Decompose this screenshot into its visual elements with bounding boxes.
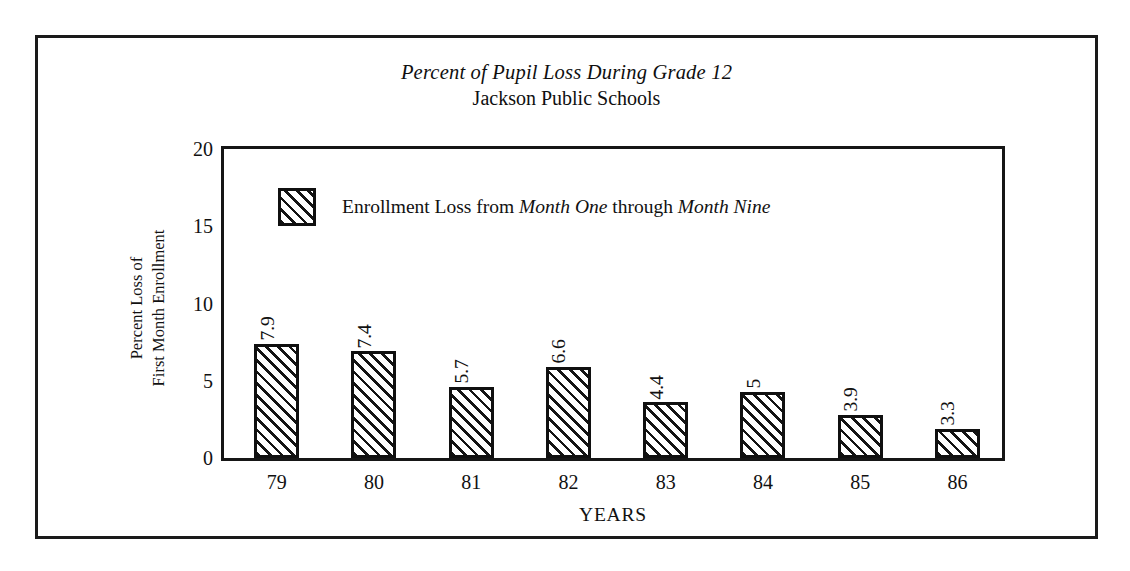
x-axis-category-label: 86 bbox=[947, 472, 967, 492]
bar[interactable]: 5.781 bbox=[449, 387, 494, 458]
bar-value-label: 7.4 bbox=[354, 324, 374, 348]
bar-value-label: 7.9 bbox=[257, 316, 277, 340]
bar[interactable]: 584 bbox=[740, 392, 785, 458]
bar[interactable]: 7.979 bbox=[254, 344, 299, 458]
y-axis-title: Percent Loss of First Month Enrollment bbox=[126, 188, 186, 428]
page-title: Percent of Pupil Loss During Grade 12 bbox=[38, 60, 1095, 85]
bar-value-label: 3.9 bbox=[841, 387, 861, 411]
bar[interactable]: 3.386 bbox=[935, 429, 980, 458]
bar[interactable]: 7.480 bbox=[351, 351, 396, 458]
x-axis-category-label: 85 bbox=[850, 472, 870, 492]
bar-value-label: 6.6 bbox=[549, 339, 569, 363]
legend-label: Enrollment Loss from Month One through M… bbox=[342, 197, 770, 217]
y-axis-title-line1: Percent Loss of bbox=[126, 188, 148, 428]
legend-text-italic-2: Month Nine bbox=[678, 196, 771, 217]
y-axis-title-line2: First Month Enrollment bbox=[148, 188, 170, 428]
x-axis-category-label: 83 bbox=[656, 472, 676, 492]
y-axis-tick-label: 15 bbox=[193, 216, 213, 236]
y-axis-tick-label: 20 bbox=[193, 139, 213, 159]
bar-value-label: 5.7 bbox=[452, 360, 472, 384]
y-axis-tick-label: 10 bbox=[193, 294, 213, 314]
legend-text-2: through bbox=[607, 196, 677, 217]
legend: Enrollment Loss from Month One through M… bbox=[278, 188, 770, 226]
bar[interactable]: 3.985 bbox=[838, 415, 883, 458]
legend-text-1: Enrollment Loss from bbox=[342, 196, 519, 217]
hatched-square-icon bbox=[278, 188, 316, 226]
y-axis-tick-label: 0 bbox=[203, 448, 213, 468]
figure-border-frame: Percent of Pupil Loss During Grade 12 Ja… bbox=[35, 35, 1098, 539]
chart-subtitle: Jackson Public Schools bbox=[38, 86, 1095, 110]
bar[interactable]: 6.682 bbox=[546, 367, 591, 458]
x-axis-title: YEARS bbox=[221, 504, 1005, 526]
legend-text-italic-1: Month One bbox=[519, 196, 607, 217]
bar-group[interactable]: 3.985 bbox=[838, 149, 883, 458]
x-axis-category-label: 79 bbox=[267, 472, 287, 492]
bar-value-label: 5 bbox=[743, 379, 763, 389]
bar-value-label: 3.3 bbox=[938, 401, 958, 425]
x-axis-category-label: 80 bbox=[364, 472, 384, 492]
y-axis-tick-label: 5 bbox=[203, 371, 213, 391]
bar-value-label: 4.4 bbox=[646, 375, 666, 399]
x-axis-category-label: 82 bbox=[558, 472, 578, 492]
bar-group[interactable]: 3.386 bbox=[935, 149, 980, 458]
x-axis-category-label: 81 bbox=[461, 472, 481, 492]
x-axis-category-label: 84 bbox=[753, 472, 773, 492]
bar[interactable]: 4.483 bbox=[643, 402, 688, 458]
title-block: Percent of Pupil Loss During Grade 12 Ja… bbox=[38, 60, 1095, 110]
